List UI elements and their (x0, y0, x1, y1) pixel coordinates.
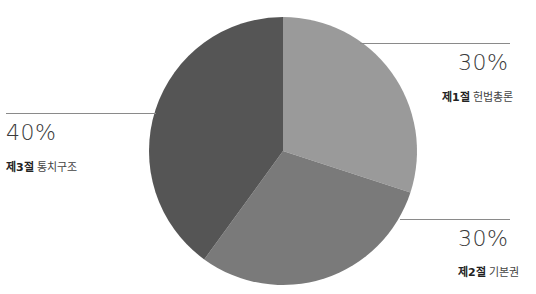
leader-line-s2 (400, 219, 510, 220)
slice-3-section: 제3절 (6, 161, 34, 174)
leader-line-s1 (360, 43, 510, 44)
slice-2-section: 제2절 (458, 266, 486, 279)
slice-2-percent: 30% (458, 226, 508, 251)
leader-line-s3 (6, 113, 156, 114)
slice-1-percent: 30% (458, 50, 508, 75)
slice-2-name: 기본권 (489, 266, 519, 279)
slice-1-section: 제1절 (442, 91, 470, 104)
slice-3-name: 통치구조 (37, 161, 77, 174)
slice-3-label: 제3절 통치구조 (6, 158, 77, 174)
slice-3-percent: 40% (6, 120, 56, 145)
pie-chart (0, 0, 536, 294)
slice-1-label: 제1절 헌법총론 (442, 88, 513, 104)
slice-2-label: 제2절 기본권 (458, 263, 519, 279)
slice-1-name: 헌법총론 (473, 91, 513, 104)
